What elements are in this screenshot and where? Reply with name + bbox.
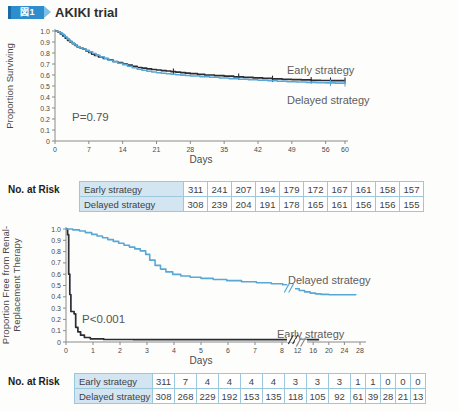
risk-row: Early strategy31124120719417917216716115… <box>80 182 424 197</box>
risk-count: 207 <box>232 182 256 197</box>
risk-count: 167 <box>328 182 352 197</box>
p-value-annotation: P=0.79 <box>72 111 109 123</box>
risk-count: 172 <box>304 182 328 197</box>
x-tick-label: 3 <box>145 347 149 354</box>
risk-count: 21 <box>396 389 411 404</box>
risk-count: 165 <box>304 197 328 212</box>
risk-count: 7 <box>175 374 197 389</box>
x-tick-label: 21 <box>153 146 161 153</box>
risk-count: 28 <box>381 389 396 404</box>
no-at-risk-table-top: Early strategy31124120719417917216716115… <box>79 181 424 212</box>
risk-count: 1 <box>351 374 366 389</box>
risk-row: Delayed strategy308239204191178165161156… <box>80 197 424 212</box>
series-label-early-strategy: Early strategy <box>287 64 355 76</box>
y-tick-label: 0 <box>57 339 61 346</box>
figure-number-label: 図1 <box>13 6 42 19</box>
risk-count: 156 <box>352 197 376 212</box>
y-axis-title: Proportion Free from Renal- <box>0 226 11 344</box>
x-tick-label: 5 <box>199 347 203 354</box>
risk-count: 192 <box>219 389 241 404</box>
risk-count: 118 <box>285 389 307 404</box>
risk-count: 0 <box>396 374 411 389</box>
x-tick-label: 2 <box>118 347 122 354</box>
x-tick-label: 0 <box>64 347 68 354</box>
y-tick-label: 0.7 <box>40 61 50 68</box>
y-tick-label: 1.0 <box>51 226 61 233</box>
risk-count: 158 <box>376 182 400 197</box>
y-tick-label: 0.3 <box>51 305 61 312</box>
risk-row: Early strategy3117444433311000 <box>75 374 426 389</box>
y-tick-label: 0.6 <box>51 271 61 278</box>
y-tick-label: 0.7 <box>51 259 61 266</box>
risk-count: 13 <box>411 389 426 404</box>
x-tick-label: 12 <box>294 347 302 354</box>
risk-count: 155 <box>400 197 424 212</box>
risk-table: Early strategy3117444433311000Delayed st… <box>74 373 426 404</box>
no-at-risk-table-bottom: Early strategy3117444433311000Delayed st… <box>74 373 426 404</box>
risk-count: 153 <box>241 389 263 404</box>
risk-count: 39 <box>366 389 381 404</box>
risk-count: 204 <box>232 197 256 212</box>
risk-count: 4 <box>263 374 285 389</box>
x-tick-label: 24 <box>341 347 349 354</box>
x-tick-label: 28 <box>186 146 194 153</box>
risk-count: 61 <box>351 389 366 404</box>
y-tick-label: 0.2 <box>40 116 50 123</box>
risk-count: 268 <box>175 389 197 404</box>
strategy-label: Delayed strategy <box>80 197 184 212</box>
y-tick-label: 0.8 <box>51 248 61 255</box>
y-tick-label: 0.8 <box>40 50 50 57</box>
y-axis-title: Replacement Therapy <box>11 238 22 332</box>
x-tick-label: 49 <box>288 146 296 153</box>
risk-count: 308 <box>153 389 175 404</box>
risk-count: 229 <box>197 389 219 404</box>
x-tick-label: 35 <box>220 146 228 153</box>
x-axis-title: Days <box>190 355 213 366</box>
x-tick-label: 6 <box>226 347 230 354</box>
risk-count: 4 <box>197 374 219 389</box>
risk-count: 105 <box>307 389 329 404</box>
risk-count: 241 <box>208 182 232 197</box>
y-tick-label: 0.5 <box>51 282 61 289</box>
x-tick-label: 4 <box>172 347 176 354</box>
x-tick-label: 28 <box>356 347 364 354</box>
x-axis-title: Days <box>190 154 213 165</box>
risk-table: Early strategy31124120719417917216716115… <box>79 181 424 212</box>
risk-count: 157 <box>400 182 424 197</box>
x-tick-label: 7 <box>253 347 257 354</box>
x-tick-label: 14 <box>119 146 127 153</box>
no-at-risk-label-bottom: No. at Risk <box>8 376 60 387</box>
y-tick-label: 0.9 <box>51 237 61 244</box>
risk-count: 1 <box>366 374 381 389</box>
risk-count: 311 <box>153 374 175 389</box>
x-tick-label: 7 <box>87 146 91 153</box>
risk-count: 239 <box>208 197 232 212</box>
risk-count: 194 <box>256 182 280 197</box>
risk-count: 0 <box>411 374 426 389</box>
risk-count: 161 <box>328 197 352 212</box>
risk-count: 4 <box>241 374 263 389</box>
figure-header: 図1 AKIKI trial <box>8 4 118 20</box>
y-tick-label: 0.1 <box>40 127 50 134</box>
y-tick-label: 1.0 <box>40 28 50 35</box>
y-tick-label: 0.6 <box>40 72 50 79</box>
risk-count: 178 <box>280 197 304 212</box>
strategy-label: Delayed strategy <box>75 389 153 404</box>
risk-count: 3 <box>329 374 351 389</box>
y-tick-label: 0.3 <box>40 105 50 112</box>
x-tick-label: 16 <box>309 347 317 354</box>
badge-arrow-icon <box>44 6 51 18</box>
risk-count: 311 <box>184 182 208 197</box>
risk-count: 308 <box>184 197 208 212</box>
risk-count: 92 <box>329 389 351 404</box>
no-at-risk-label-top: No. at Risk <box>8 184 60 195</box>
risk-count: 3 <box>285 374 307 389</box>
x-tick-label: 56 <box>322 146 330 153</box>
strategy-label: Early strategy <box>80 182 184 197</box>
y-axis-title: Proportion Surviving <box>4 43 15 129</box>
risk-count: 0 <box>381 374 396 389</box>
risk-count: 135 <box>263 389 285 404</box>
strategy-label: Early strategy <box>75 374 153 389</box>
x-tick-label: 42 <box>254 146 262 153</box>
y-tick-label: 0.4 <box>51 293 61 300</box>
